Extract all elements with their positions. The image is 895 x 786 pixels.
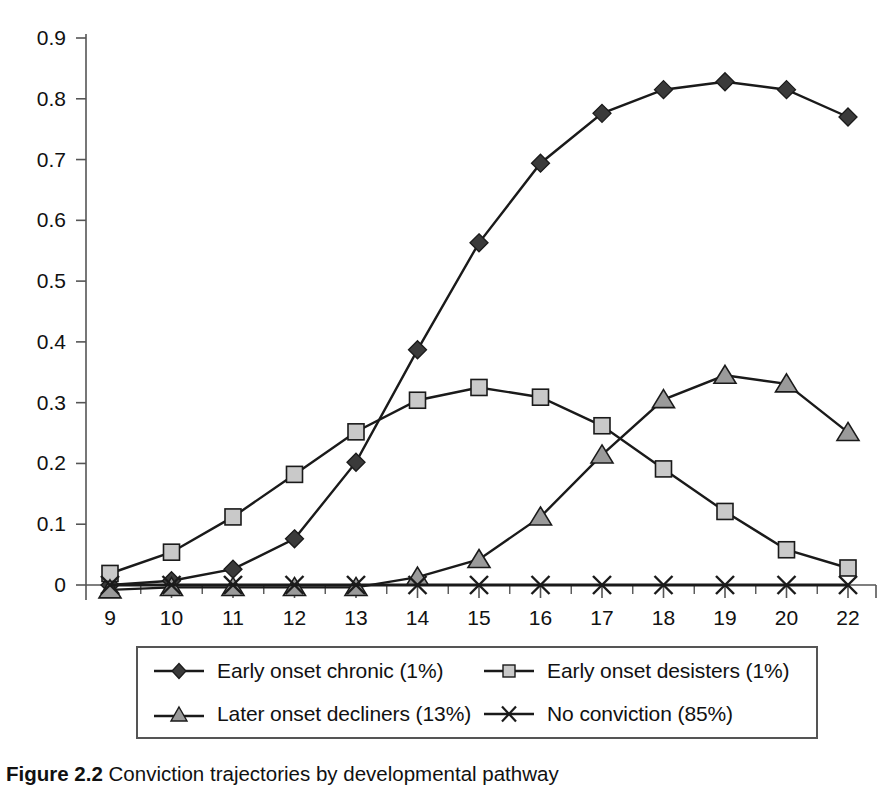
data-point-diamond [778,81,796,99]
data-point-diamond [409,341,427,359]
legend-item-early-onset-desisters: Early onset desisters (1%) [482,659,816,683]
figure-caption-label: Figure 2.2 [6,762,103,785]
series-line [110,82,848,585]
legend-label-early-onset-chronic: Early onset chronic (1%) [217,659,443,683]
x-axis-tick-label: 18 [652,606,675,629]
legend-marker-square-icon [482,660,536,682]
data-point-square [779,542,795,558]
data-point-triangle [653,390,675,408]
data-point-square [410,392,426,408]
data-point-diamond [224,560,242,578]
data-point-square [164,544,180,560]
figure-caption-text: Conviction trajectories by developmental… [109,762,559,785]
data-point-square [533,389,549,405]
data-point-diamond [716,73,734,91]
x-axis-group: 9101112131415161718192022 [86,585,876,629]
line-chart-plot: 00.10.20.30.40.50.60.70.80.9 91011121314… [0,0,895,640]
x-axis-tick-label: 13 [344,606,367,629]
legend-marker-triangle-icon [152,703,206,725]
legend-label-early-onset-desisters: Early onset desisters (1%) [547,659,790,683]
legend-label-no-conviction: No conviction (85%) [547,702,733,726]
y-axis-tick-labels: 00.10.20.30.40.50.60.70.80.9 [37,26,67,596]
y-axis-tick-label: 0.4 [37,330,67,353]
legend-item-no-conviction: No conviction (85%) [482,702,816,726]
data-point-square [287,466,303,482]
data-point-diamond [839,108,857,126]
x-axis-tick-label: 19 [713,606,736,629]
legend-item-early-onset-chronic: Early onset chronic (1%) [152,659,482,683]
series-triangle [99,365,859,598]
data-series-layer [99,73,859,598]
series-diamond [101,73,857,594]
legend-label-later-onset-decliners: Later onset decliners (13%) [217,702,471,726]
data-point-square [348,424,364,440]
data-point-triangle [714,365,736,383]
y-axis-group: 00.10.20.30.40.50.60.70.80.9 [37,26,86,600]
x-axis-tick-label: 12 [283,606,306,629]
legend-marker-diamond-icon [152,660,206,682]
data-point-triangle [468,549,490,567]
y-axis-tick-label: 0.6 [37,208,66,231]
chart-legend: Early onset chronic (1%) Early onset des… [136,646,818,739]
x-axis-tick-label: 10 [160,606,183,629]
data-point-square [471,379,487,395]
y-axis-ticks [76,38,86,585]
data-point-square [717,503,733,519]
data-point-square [840,560,856,576]
x-axis-tick-label: 17 [590,606,613,629]
x-axis-tick-label: 11 [222,606,244,629]
data-point-square [656,461,672,477]
figure-caption: Figure 2.2 Conviction trajectories by de… [6,762,886,786]
x-axis-tick-labels: 9101112131415161718192022 [104,606,860,629]
y-axis-tick-label: 0.1 [37,512,66,535]
y-axis-tick-label: 0.8 [37,87,66,110]
series-line [110,388,848,574]
x-axis-tick-label: 16 [529,606,552,629]
x-axis-tick-label: 15 [467,606,490,629]
x-axis-tick-label: 9 [104,606,116,629]
x-axis-tick-label: 20 [775,606,798,629]
data-point-square [225,509,241,525]
y-axis-tick-label: 0.2 [37,451,66,474]
x-axis-tick-label: 22 [836,606,859,629]
legend-item-later-onset-decliners: Later onset decliners (13%) [152,702,482,726]
x-axis-tick-label: 14 [406,606,430,629]
y-axis-tick-label: 0.5 [37,269,66,292]
legend-marker-cross-icon [482,703,536,725]
data-point-square [594,418,610,434]
y-axis-tick-label: 0.7 [37,148,66,171]
y-axis-tick-label: 0.3 [37,391,66,414]
y-axis-tick-label: 0.9 [37,26,66,49]
y-axis-tick-label: 0 [54,573,66,596]
data-point-diamond [655,81,673,99]
